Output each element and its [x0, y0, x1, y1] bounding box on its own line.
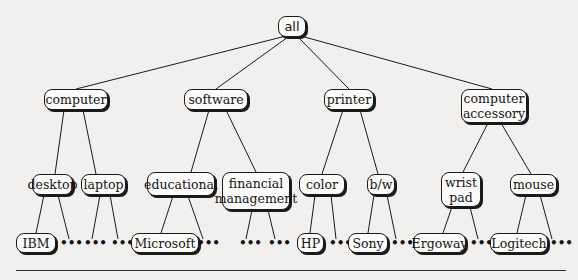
node-educational: educational — [147, 172, 215, 196]
node-mouse: mouse — [510, 174, 557, 195]
node-wrist-pad: wrist pad — [441, 172, 481, 207]
node-sony: Sony — [348, 233, 388, 253]
node-computer-accessory: computer accessory — [461, 89, 527, 123]
node-hp: HP — [297, 233, 324, 253]
bottom-rule-divider — [16, 270, 566, 271]
ellipsis-more: ••• — [268, 237, 291, 249]
ellipsis-more: ••• — [550, 237, 573, 249]
node-color: color — [299, 174, 345, 195]
ellipsis-more: ••• — [197, 237, 220, 249]
node-microsoft: Microsoft — [131, 233, 199, 253]
node-financial-management: financial management — [222, 172, 290, 210]
ellipsis-more: ••• — [239, 237, 262, 249]
node-printer: printer — [324, 89, 374, 110]
node-ibm: IBM — [16, 233, 56, 253]
ellipsis-more: ••• — [60, 237, 83, 249]
node-ergoway: Ergoway — [413, 233, 466, 253]
node-laptop: laptop — [81, 174, 126, 195]
ellipsis-more: ••• — [391, 237, 414, 249]
ellipsis-more: ••• — [84, 237, 107, 249]
node-bw: b/w — [367, 174, 395, 195]
node-desktop: desktop — [32, 174, 73, 195]
node-computer: computer — [44, 89, 108, 110]
node-all: all — [278, 16, 306, 37]
node-software: software — [184, 89, 248, 110]
node-logitech: Logitech — [490, 233, 548, 253]
